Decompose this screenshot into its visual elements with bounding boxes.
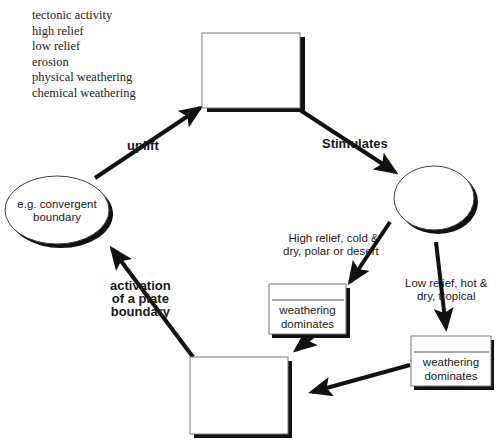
top-box: [202, 33, 300, 108]
stimulates-label: Stimulates: [322, 137, 388, 151]
right-box-text: weathering dominates: [411, 355, 491, 383]
uplift-label: uplift: [127, 139, 159, 153]
low-relief-label: Low relief, hot & dry, tropical: [405, 277, 487, 303]
left-ellipse-label: e.g. convergent boundary: [14, 198, 100, 224]
activation-label: activation of a plate boundary: [110, 279, 171, 318]
right-to-bottom-arrow: [312, 365, 410, 392]
right-ellipse: [394, 166, 474, 230]
high-relief-label: High relief, cold & dry, polar or desert: [283, 232, 379, 258]
bottom-box: [190, 357, 288, 434]
mid-box-text: weathering dominates: [269, 303, 346, 331]
